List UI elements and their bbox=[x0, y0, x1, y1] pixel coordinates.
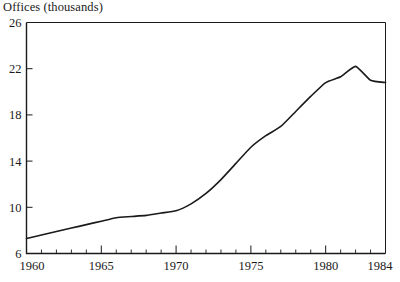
chart-container: Offices (thousands) 61014182226 19601965… bbox=[0, 0, 400, 282]
x-tick-label: 1965 bbox=[89, 259, 114, 273]
y-tick-label: 18 bbox=[9, 108, 22, 122]
y-tick-label: 10 bbox=[9, 201, 22, 215]
x-axis-ticks bbox=[41, 246, 370, 254]
y-tick-label: 14 bbox=[9, 155, 22, 169]
plot-frame bbox=[27, 23, 386, 254]
x-tick-label: 1980 bbox=[313, 259, 338, 273]
y-axis-ticks bbox=[27, 69, 33, 208]
x-tick-label: 1970 bbox=[164, 259, 189, 273]
x-axis-tick-labels: 196019651970197519801984 bbox=[20, 259, 394, 273]
y-tick-label: 22 bbox=[9, 62, 22, 76]
data-series-line bbox=[27, 66, 386, 238]
x-tick-label: 1975 bbox=[238, 259, 263, 273]
y-tick-label: 26 bbox=[9, 16, 22, 30]
x-tick-label: 1984 bbox=[368, 259, 394, 273]
x-tick-label: 1960 bbox=[20, 259, 45, 273]
y-axis-tick-labels: 61014182226 bbox=[9, 16, 22, 261]
line-chart-plot: 61014182226 196019651970197519801984 bbox=[0, 0, 400, 282]
